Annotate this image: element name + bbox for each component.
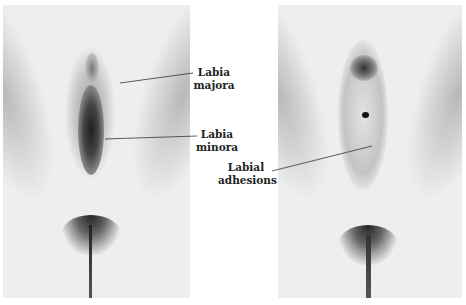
label-labia-minora: Labia minora — [196, 128, 238, 154]
leader-line-labia-minora — [105, 136, 197, 139]
label-line: minora — [196, 141, 238, 154]
label-line: Labia — [196, 128, 238, 141]
label-line: Labia — [193, 66, 235, 79]
label-line: adhesions — [218, 174, 274, 187]
leader-line-labial-adhesions — [272, 146, 372, 171]
leader-line-labia-majora — [120, 73, 193, 83]
label-labial-adhesions: Labial adhesions — [218, 161, 274, 187]
label-line: Labial — [218, 161, 274, 174]
label-labia-majora: Labia majora — [193, 66, 235, 92]
label-line: majora — [193, 79, 235, 92]
